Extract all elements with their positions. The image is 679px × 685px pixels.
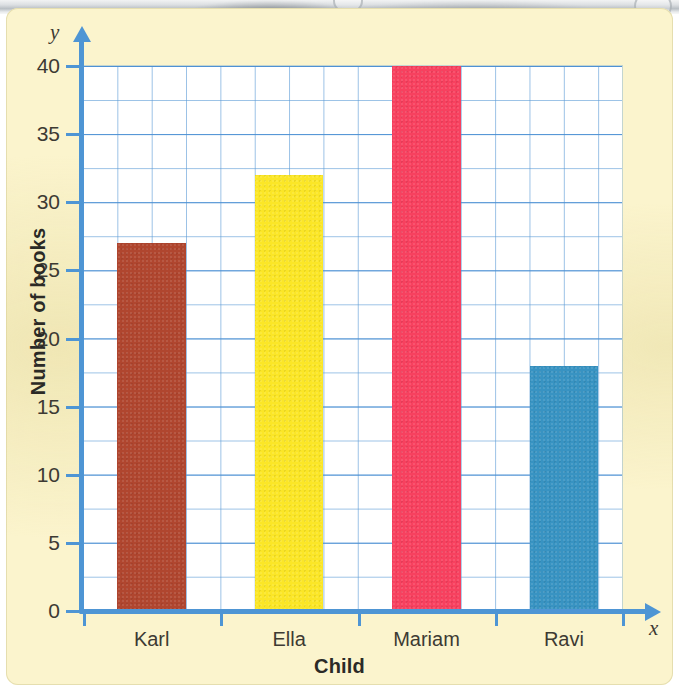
x-tick-3 bbox=[495, 613, 498, 626]
x-axis-title: Child bbox=[0, 655, 679, 678]
bar-texture bbox=[117, 243, 186, 611]
x-category-mariam: Mariam bbox=[393, 628, 460, 651]
bar-mariam[interactable] bbox=[392, 66, 461, 611]
bar-texture bbox=[255, 175, 324, 611]
y-tick-mark bbox=[66, 201, 79, 204]
y-tick-mark bbox=[66, 269, 79, 272]
y-tick-label: 10 bbox=[8, 463, 60, 487]
y-tick-label: 0 bbox=[8, 599, 60, 623]
y-tick-mark bbox=[66, 406, 79, 409]
y-tick-label: 35 bbox=[8, 122, 60, 146]
bar-ella[interactable] bbox=[255, 175, 324, 611]
bar-texture bbox=[392, 66, 461, 611]
x-axis-line bbox=[79, 609, 655, 614]
y-tick-label: 5 bbox=[8, 531, 60, 555]
y-tick-mark bbox=[66, 542, 79, 545]
y-tick-mark bbox=[66, 65, 79, 68]
y-tick-label: 40 bbox=[8, 54, 60, 78]
bar-texture bbox=[530, 366, 599, 611]
y-tick-mark bbox=[66, 610, 79, 613]
x-tick-0 bbox=[83, 613, 86, 626]
bar-ravi[interactable] bbox=[530, 366, 599, 611]
bar-karl[interactable] bbox=[117, 243, 186, 611]
y-tick-mark bbox=[66, 338, 79, 341]
x-tick-4 bbox=[622, 613, 625, 626]
x-axis-letter: x bbox=[649, 616, 658, 641]
x-tick-2 bbox=[358, 613, 361, 626]
x-category-ella: Ella bbox=[272, 628, 305, 651]
bars-layer bbox=[83, 66, 622, 611]
x-tick-1 bbox=[220, 613, 223, 626]
y-tick-mark bbox=[66, 133, 79, 136]
x-category-ravi: Ravi bbox=[544, 628, 584, 651]
scanned-page: y x 40 35 30 25 20 bbox=[0, 0, 679, 685]
y-axis-title: Number of books bbox=[27, 182, 50, 442]
y-tick-mark bbox=[66, 474, 79, 477]
x-category-karl: Karl bbox=[134, 628, 170, 651]
